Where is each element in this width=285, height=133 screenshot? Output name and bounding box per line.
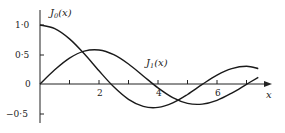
x-axis-arrow-icon	[264, 81, 272, 87]
bessel-chart: 1·0 0·5 0 −0·5 2 4 6 x J0(x) J1(x)	[0, 0, 285, 133]
y-label-1: 1·0	[15, 20, 30, 30]
x-axis-label: x	[266, 89, 272, 100]
j1-label: J1(x)	[144, 57, 168, 70]
x-label-6: 6	[215, 88, 221, 98]
y-label-m05: −0·5	[6, 109, 28, 119]
x-label-4: 4	[156, 88, 162, 98]
y-label-0: 0	[25, 79, 31, 89]
x-label-2: 2	[97, 88, 103, 98]
j0-label: J0(x)	[48, 7, 72, 20]
x-ticks	[70, 80, 247, 84]
y-label-05: 0·5	[15, 50, 30, 60]
